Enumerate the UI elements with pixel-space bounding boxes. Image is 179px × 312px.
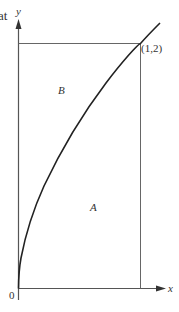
y-axis-arrow-icon	[16, 19, 22, 29]
point-label: (1,2)	[141, 42, 162, 55]
origin-label: 0	[9, 289, 15, 301]
diagram-figure: at y x 0 (1,2) B A	[0, 0, 179, 312]
region-label-b: B	[58, 84, 65, 96]
region-label-a: A	[89, 201, 97, 213]
y-axis-label: y	[15, 5, 21, 17]
curve-sqrt	[19, 23, 161, 289]
x-axis-label: x	[167, 282, 173, 294]
x-axis-arrow-icon	[156, 286, 166, 292]
cropped-caption-text: at	[0, 8, 8, 23]
